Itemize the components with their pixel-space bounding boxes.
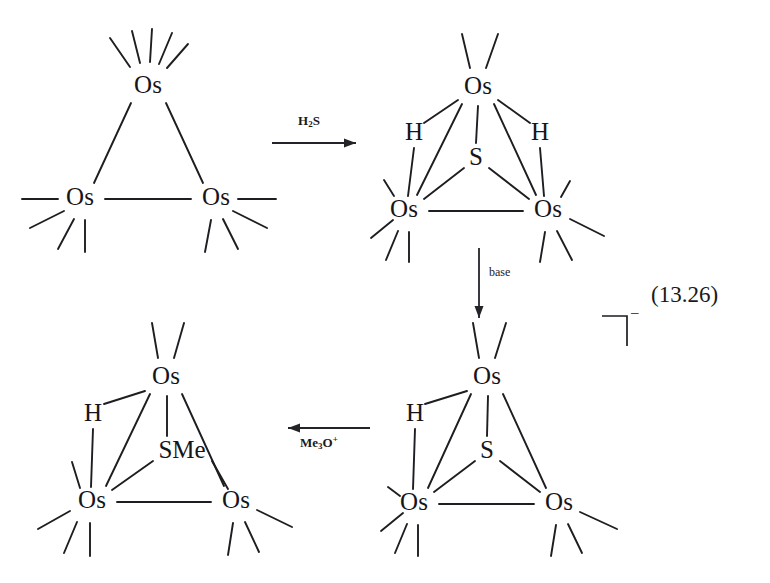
bond-h-right-os-top — [498, 100, 530, 123]
bond-h-right-os-bottom-right — [540, 148, 544, 196]
atom-label-h: H — [84, 399, 102, 426]
atom-label-os: Os — [222, 486, 250, 513]
bond-h-left-os-bottom-left — [413, 429, 415, 489]
bond-h-left-os-bottom-left — [408, 148, 414, 196]
arrow-head-right — [344, 139, 356, 148]
bond-h-left-os-top — [425, 391, 467, 404]
ligands-os-bottom-right — [551, 512, 617, 556]
reaction-arrow-h2s — [272, 139, 356, 148]
bond-s-os-bottom-right — [489, 168, 529, 199]
bond-s-os-top — [476, 106, 478, 143]
atom-label-h: H — [406, 399, 424, 426]
bond-h-left-os-top — [424, 100, 458, 123]
ligands-os-top — [473, 323, 506, 358]
ligands-os-top — [110, 29, 188, 68]
ligands-os-top — [462, 34, 498, 68]
bond-sme-os-bottom-left — [112, 461, 153, 490]
atom-label-s: S — [469, 143, 483, 170]
arrow-head-left — [288, 424, 300, 433]
atom-label-sme: SMe — [158, 436, 205, 463]
ligands-os-bottom-right — [228, 510, 292, 555]
bond-os-top-os-bottom-left — [94, 103, 131, 183]
ligands-os-top — [152, 323, 184, 358]
atom-label-os: Os — [78, 486, 106, 513]
atom-label-os: Os — [134, 71, 162, 98]
bond-h-left-os-top — [104, 391, 145, 404]
atom-label-os: Os — [390, 195, 418, 222]
charge-bracket — [602, 316, 627, 346]
atom-label-os: Os — [152, 362, 180, 389]
structure-4: Os Os Os SMe H — [38, 323, 292, 556]
bond-s-os-bottom-right — [500, 461, 540, 492]
reagent-label-me3o: Me3O+ — [300, 434, 338, 451]
atom-label-os: Os — [545, 488, 573, 515]
arrow-head-down — [475, 306, 484, 318]
bond-os-top-os-bottom-left — [106, 394, 150, 486]
structure-1: Os Os Os — [22, 29, 276, 252]
bond-s-os-bottom-left — [434, 461, 475, 492]
reaction-arrow-base — [475, 248, 484, 318]
bond-s-os-bottom-left — [424, 168, 464, 199]
atom-label-os: Os — [66, 183, 94, 210]
atom-label-os: Os — [534, 195, 562, 222]
atom-label-os: Os — [202, 183, 230, 210]
bond-os-top-os-bottom-left — [428, 394, 471, 488]
atom-label-h: H — [405, 118, 423, 145]
atom-label-os: Os — [400, 488, 428, 515]
bond-s-os-top — [487, 396, 488, 436]
structure-3: Os Os Os S H — [381, 323, 617, 556]
atom-label-os: Os — [464, 72, 492, 99]
atom-label-h: H — [531, 118, 549, 145]
equation-number: (13.26) — [651, 282, 718, 308]
structure-2: Os Os Os S H H — [371, 34, 604, 262]
bond-os-top-os-bottom-left — [417, 104, 462, 195]
reaction-scheme-figure: Os Os Os — [0, 0, 770, 583]
bond-os-top-os-bottom-right — [503, 394, 546, 488]
atom-label-s: S — [480, 436, 494, 463]
reagent-label-base: base — [489, 265, 510, 280]
atom-label-os: Os — [473, 362, 501, 389]
reaction-arrow-me3o — [288, 424, 370, 433]
charge-sign-negative: – — [631, 304, 639, 321]
bond-os-top-os-bottom-right — [166, 103, 203, 183]
bond-h-left-os-bottom-left — [91, 429, 93, 487]
reagent-label-h2s: H2S — [298, 113, 320, 129]
bond-os-top-os-bottom-right — [494, 104, 536, 195]
